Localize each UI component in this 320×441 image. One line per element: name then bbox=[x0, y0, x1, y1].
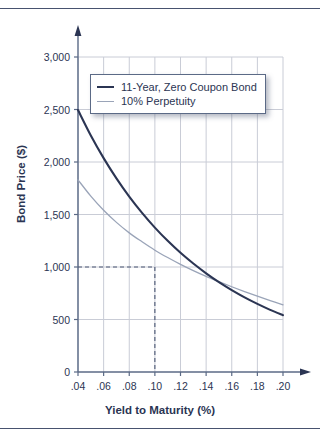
chart-legend: 11-Year, Zero Coupon Bond 10% Perpetuity bbox=[90, 74, 266, 114]
legend-entry: 10% Perpetuity bbox=[97, 94, 257, 108]
y-tick-label: 2,000 bbox=[26, 157, 70, 168]
legend-line-swatch-perpetuity bbox=[97, 101, 114, 102]
y-tick-label: 1,000 bbox=[26, 262, 70, 273]
y-tick-label: 3,000 bbox=[26, 52, 70, 63]
legend-label-perpetuity: 10% Perpetuity bbox=[121, 96, 196, 107]
legend-label-zero-coupon: 11-Year, Zero Coupon Bond bbox=[121, 82, 257, 93]
legend-line-swatch-zero-coupon bbox=[97, 86, 114, 88]
y-tick-label: 2,500 bbox=[26, 105, 70, 116]
y-tick-label: 0 bbox=[26, 367, 70, 378]
y-axis-title: Bond Price ($) bbox=[15, 119, 27, 249]
y-tick-label: 500 bbox=[26, 315, 70, 326]
x-axis-title: Yield to Maturity (%) bbox=[0, 404, 320, 416]
legend-entry: 11-Year, Zero Coupon Bond bbox=[97, 80, 257, 94]
chart-figure: 05001,0001,5002,0002,5003,000 .04.06.08.… bbox=[0, 0, 320, 441]
x-tick-label: .20 bbox=[268, 381, 298, 392]
y-tick-label: 1,500 bbox=[26, 210, 70, 221]
